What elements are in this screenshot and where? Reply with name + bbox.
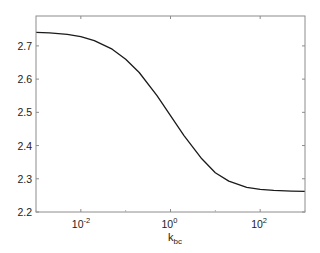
- y-tick-label: 2.3: [17, 173, 32, 185]
- axes: [36, 16, 305, 212]
- plot-area: [36, 32, 305, 191]
- x-axis-label: kbc: [168, 231, 182, 246]
- x-axis-ticks: 10-2100102: [36, 16, 305, 230]
- line-chart: 10-2100102 2.22.32.42.52.62.7 kbc: [0, 0, 320, 253]
- y-axis-ticks: 2.22.32.42.52.62.7: [17, 40, 305, 218]
- axes-box: [36, 16, 305, 212]
- x-tick-label: 102: [251, 216, 267, 230]
- y-tick-label: 2.6: [17, 73, 32, 85]
- y-tick-label: 2.4: [17, 140, 32, 152]
- y-tick-label: 2.2: [17, 206, 32, 218]
- data-line: [36, 32, 305, 191]
- x-tick-label: 10-2: [72, 216, 90, 230]
- y-tick-label: 2.7: [17, 40, 32, 52]
- y-tick-label: 2.5: [17, 106, 32, 118]
- x-tick-label: 100: [162, 216, 178, 230]
